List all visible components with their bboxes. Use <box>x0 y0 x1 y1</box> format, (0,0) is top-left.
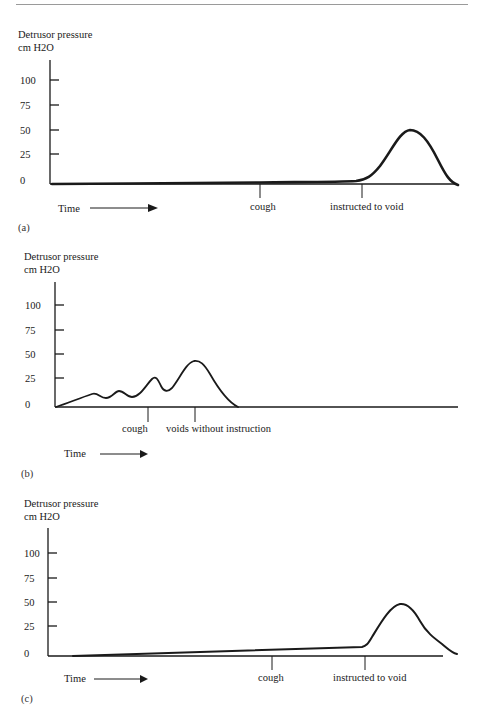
time-arrow-icon <box>94 675 148 683</box>
y-tick-label: 100 <box>20 75 36 86</box>
y-tick-label: 75 <box>20 100 31 111</box>
y-tick-label: 0 <box>24 648 29 659</box>
y-tick-label: 75 <box>25 325 36 336</box>
y-axis-label-line2: cm H2O <box>18 42 54 53</box>
y-tick-label: 25 <box>24 621 35 632</box>
pressure-curve <box>73 604 457 656</box>
y-tick-label: 50 <box>24 597 35 608</box>
y-axis-label-line1: Detrusor pressure <box>18 29 93 40</box>
panel-label-c: (c) <box>21 693 33 705</box>
panel-label-a: (a) <box>18 222 30 234</box>
y-tick-label: 25 <box>25 373 36 384</box>
panel-label-b: (b) <box>21 468 34 480</box>
y-ticks: 100 75 50 25 0 <box>25 300 64 410</box>
y-tick-label: 0 <box>20 175 25 186</box>
y-tick-label: 50 <box>20 125 31 136</box>
y-ticks: 100 75 50 25 0 <box>20 75 59 186</box>
y-tick-label: 0 <box>25 399 30 410</box>
annotation-instructed-to-void: instructed to void <box>330 201 404 212</box>
y-axis-label-line2: cm H2O <box>24 264 60 275</box>
y-tick-label: 50 <box>25 349 36 360</box>
annotation-cough: cough <box>122 423 148 434</box>
chart-panel-a: Detrusor pressure cm H2O 100 75 50 25 0 … <box>18 29 458 234</box>
time-arrow-icon <box>90 204 158 212</box>
y-ticks: 100 75 50 25 0 <box>24 548 57 659</box>
y-axis-label-line2: cm H2O <box>24 511 60 522</box>
annotation-voids-without-instruction: voids without instruction <box>166 423 272 434</box>
annotation-cough: cough <box>250 201 276 212</box>
x-axis-label: Time <box>64 673 86 684</box>
y-tick-label: 75 <box>24 573 35 584</box>
y-axis-label-line1: Detrusor pressure <box>24 251 99 262</box>
chart-panel-b: Detrusor pressure cm H2O 100 75 50 25 0 … <box>21 251 458 480</box>
time-arrow-icon <box>100 450 148 458</box>
x-axis-label: Time <box>64 448 86 459</box>
y-tick-label: 25 <box>20 149 31 160</box>
pressure-curve <box>52 130 458 185</box>
x-axis-label: Time <box>58 203 80 214</box>
y-tick-label: 100 <box>25 300 41 311</box>
y-tick-label: 100 <box>24 548 40 559</box>
annotation-cough: cough <box>258 672 284 683</box>
annotation-instructed-to-void: instructed to void <box>333 672 407 683</box>
chart-panel-c: Detrusor pressure cm H2O 100 75 50 25 0 … <box>21 498 457 705</box>
y-axis-label-line1: Detrusor pressure <box>24 498 99 509</box>
pressure-curve <box>56 361 238 407</box>
figure-canvas: Detrusor pressure cm H2O 100 75 50 25 0 … <box>0 0 478 705</box>
